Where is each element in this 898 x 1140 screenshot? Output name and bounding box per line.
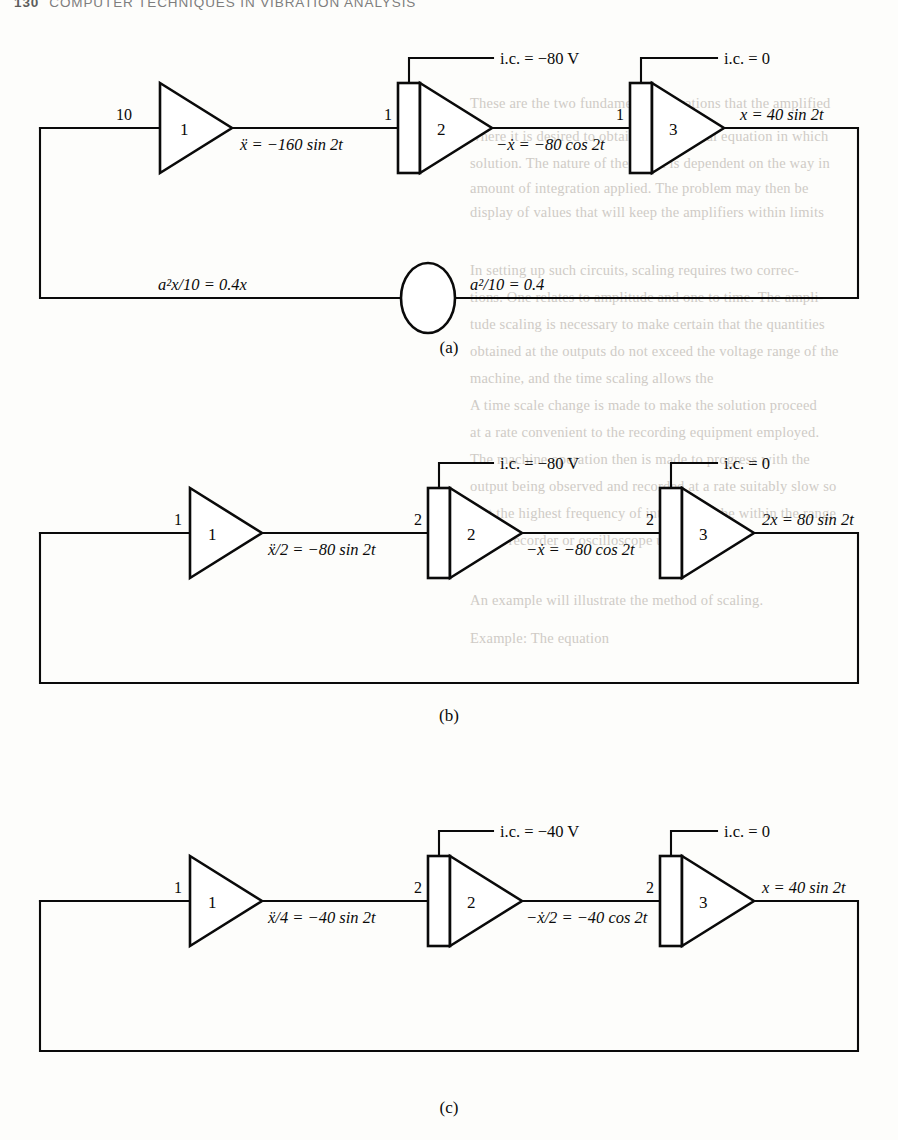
integrator2-ic-wire-b [671, 463, 717, 488]
amplifier-input-gain-c: 1 [174, 879, 182, 896]
analog-computer-circuit-a: 1 10 ẍ = −160 sin 2t 1 2 i.c. = −80 V −… [0, 40, 898, 340]
amplifier-block-number-a: 1 [180, 120, 189, 139]
integrator2-ic-label-c: i.c. = 0 [724, 822, 770, 841]
show-through-line: A time scale change is made to make the … [470, 397, 817, 414]
integrator2-input-gain-c: 2 [646, 879, 654, 896]
feedback-right-label-a: a²/10 = 0.4 [470, 275, 544, 294]
integrator1-ic-label-c: i.c. = −40 V [500, 822, 579, 841]
running-head: 130COMPUTER TECHNIQUES IN VIBRATION ANAL… [14, 0, 416, 10]
integrator1-input-bar-b [428, 488, 450, 578]
analog-computer-circuit-b: 1 1 ẍ/2 = −80 sin 2t 2 2 i.c. = −80 V −… [0, 415, 898, 705]
amplifier-output-label-a: ẍ = −160 sin 2t [239, 135, 343, 154]
integrator2-input-gain-a: 1 [616, 106, 624, 123]
integrator1-output-label-a: −ẋ = −80 cos 2t [496, 135, 605, 154]
potentiometer-symbol-a [401, 263, 455, 333]
feedback-left-label-a: a²x/10 = 0.4x [158, 275, 248, 294]
amplifier-block-number-c: 1 [208, 893, 217, 912]
caption-c: (c) [419, 1098, 479, 1118]
integrator2-ic-wire-c [671, 831, 717, 856]
integrator1-ic-label-b: i.c. = −80 V [500, 454, 579, 473]
amplifier-block-number-b: 1 [208, 525, 217, 544]
integrator2-output-label-b: 2x = 80 sin 2t [762, 510, 854, 529]
amplifier-symbol-a [160, 83, 232, 173]
integrator2-symbol-c [682, 856, 754, 946]
caption-b: (b) [419, 706, 479, 726]
book-page: 130COMPUTER TECHNIQUES IN VIBRATION ANAL… [0, 0, 898, 1140]
integrator2-symbol-a [652, 83, 724, 173]
show-through-line: obtained at the outputs do not exceed th… [470, 343, 839, 360]
integrator2-output-label-a: x = 40 sin 2t [739, 105, 824, 124]
integrator1-symbol-c [450, 856, 522, 946]
amplifier-input-gain-a: 10 [116, 106, 132, 123]
integrator2-input-gain-b: 2 [646, 511, 654, 528]
amplifier-output-label-b: ẍ/2 = −80 sin 2t [267, 540, 376, 559]
integrator2-ic-label-a: i.c. = 0 [724, 49, 770, 68]
integrator1-input-bar-a [398, 83, 420, 173]
integrator2-input-bar-b [660, 488, 682, 578]
integrator1-input-bar-c [428, 856, 450, 946]
integrator1-ic-label-a: i.c. = −80 V [500, 49, 579, 68]
integrator2-symbol-b [682, 488, 754, 578]
caption-a: (a) [419, 338, 479, 358]
integrator1-symbol-a [420, 83, 492, 173]
integrator1-output-label-c: −ẋ/2 = −40 cos 2t [526, 908, 648, 927]
integrator2-output-label-c: x = 40 sin 2t [761, 878, 846, 897]
integrator2-block-number-a: 3 [669, 120, 678, 139]
folio-number: 130 [14, 0, 39, 10]
amplifier-symbol-b [190, 488, 262, 578]
integrator1-ic-wire-c [439, 831, 493, 856]
integrator1-block-number-b: 2 [467, 525, 476, 544]
integrator1-ic-wire-b [439, 463, 493, 488]
integrator1-symbol-b [450, 488, 522, 578]
integrator2-ic-wire-a [641, 58, 717, 83]
integrator2-ic-label-b: i.c. = 0 [724, 454, 770, 473]
integrator2-block-number-b: 3 [699, 525, 708, 544]
integrator1-ic-wire-a [409, 58, 493, 83]
integrator1-input-gain-b: 2 [414, 511, 422, 528]
amplifier-output-label-c: ẍ/4 = −40 sin 2t [267, 908, 376, 927]
integrator2-input-bar-c [660, 856, 682, 946]
integrator2-block-number-c: 3 [699, 893, 708, 912]
integrator1-block-number-c: 2 [467, 893, 476, 912]
amplifier-input-gain-b: 1 [174, 511, 182, 528]
integrator1-input-gain-a: 1 [384, 106, 392, 123]
integrator1-output-label-b: −ẋ = −80 cos 2t [526, 540, 635, 559]
amplifier-symbol-c [190, 856, 262, 946]
show-through-line: machine, and the time scaling allows the [470, 370, 714, 387]
running-head-title: COMPUTER TECHNIQUES IN VIBRATION ANALYSI… [49, 0, 416, 10]
integrator2-input-bar-a [630, 83, 652, 173]
analog-computer-circuit-c: 1 1 ẍ/4 = −40 sin 2t 2 2 i.c. = −40 V −… [0, 783, 898, 1073]
integrator1-input-gain-c: 2 [414, 879, 422, 896]
integrator1-block-number-a: 2 [437, 120, 446, 139]
